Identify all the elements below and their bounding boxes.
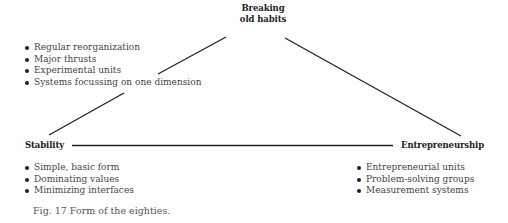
node-top-line2: old habits	[230, 14, 296, 25]
list-entrepreneurship: Entrepreneurial units Problem-solving gr…	[357, 162, 474, 197]
list-item: Experimental units	[25, 65, 201, 77]
node-entrepreneurship: Entrepreneurship	[401, 140, 484, 150]
line-top-right	[285, 38, 461, 136]
list-item: Simple, basic form	[25, 162, 134, 174]
list-item: Measurement systems	[357, 185, 474, 197]
list-item: Entrepreneurial units	[357, 162, 474, 174]
node-breaking-old-habits: Breaking old habits	[230, 3, 296, 25]
node-stability: Stability	[25, 140, 64, 150]
list-item: Regular reorganization	[25, 42, 201, 54]
node-top-line1: Breaking	[230, 3, 296, 14]
list-item: Major thrusts	[25, 54, 201, 66]
list-item: Problem-solving groups	[357, 174, 474, 186]
list-item: Systems focussing on one dimension	[25, 77, 201, 89]
list-item: Dominating values	[25, 174, 134, 186]
figure-caption: Fig. 17 Form of the eighties.	[33, 205, 170, 216]
list-stability: Simple, basic form Dominating values Min…	[25, 162, 134, 197]
list-item: Minimizing interfaces	[25, 185, 134, 197]
list-breaking-old-habits: Regular reorganization Major thrusts Exp…	[25, 42, 201, 88]
line-top-left-lower	[49, 93, 124, 135]
